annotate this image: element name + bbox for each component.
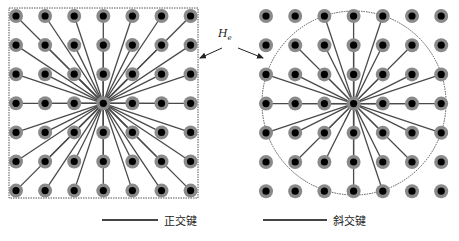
bond	[103, 103, 161, 190]
bond	[103, 103, 132, 190]
atom	[155, 155, 169, 169]
atom	[125, 38, 139, 52]
atom	[347, 97, 361, 111]
bond	[266, 104, 354, 133]
atom	[155, 9, 169, 23]
atom	[184, 67, 198, 81]
atom	[405, 126, 419, 140]
atom	[376, 9, 390, 23]
atom	[9, 67, 23, 81]
atom	[184, 9, 198, 23]
bond	[74, 103, 103, 190]
bond	[103, 103, 190, 161]
bond	[354, 16, 383, 104]
atom	[347, 67, 361, 81]
legend-item-orthogonal: 正交键	[102, 212, 197, 228]
atom	[155, 67, 169, 81]
atom	[259, 97, 273, 111]
atom	[67, 96, 81, 110]
atom	[9, 184, 23, 198]
atom	[96, 155, 110, 169]
atom	[125, 155, 139, 169]
bond	[16, 74, 103, 103]
atom	[434, 67, 448, 81]
atom	[376, 38, 390, 52]
bond	[16, 45, 103, 103]
atom	[434, 155, 448, 169]
atom	[288, 9, 302, 23]
atom	[38, 184, 52, 198]
cutoff-label: He	[218, 27, 232, 42]
atom	[376, 67, 390, 81]
atom	[155, 184, 169, 198]
atom	[67, 9, 81, 23]
atom	[288, 155, 302, 169]
atom	[405, 184, 419, 198]
atom	[317, 67, 331, 81]
atom	[96, 38, 110, 52]
atom	[38, 9, 52, 23]
bond	[74, 16, 103, 103]
atom	[317, 38, 331, 52]
atom	[376, 97, 390, 111]
atom	[184, 38, 198, 52]
atom	[9, 9, 23, 23]
atom	[288, 126, 302, 140]
cutoff-label-sub: e	[228, 34, 232, 42]
atom	[96, 96, 110, 110]
atom	[184, 125, 198, 139]
bond	[324, 16, 353, 104]
atom	[288, 38, 302, 52]
atom	[184, 96, 198, 110]
bond	[103, 103, 190, 132]
atom	[9, 38, 23, 52]
bond	[266, 74, 354, 103]
atom	[67, 155, 81, 169]
bond	[16, 103, 103, 132]
atom	[67, 125, 81, 139]
atom	[259, 126, 273, 140]
atom	[259, 155, 273, 169]
bond	[103, 45, 190, 103]
atom	[9, 155, 23, 169]
atom	[434, 38, 448, 52]
atom	[376, 126, 390, 140]
arrow-right	[238, 48, 263, 58]
atom	[405, 97, 419, 111]
bond	[103, 16, 161, 103]
atom	[347, 184, 361, 198]
legend-line-orthogonal	[102, 219, 158, 221]
atom	[155, 38, 169, 52]
bond	[354, 104, 442, 133]
atom	[38, 96, 52, 110]
atom	[259, 38, 273, 52]
atom	[9, 96, 23, 110]
atom	[125, 67, 139, 81]
atom	[347, 38, 361, 52]
bond	[354, 74, 442, 103]
atom	[67, 38, 81, 52]
atom	[376, 155, 390, 169]
atom	[434, 184, 448, 198]
atom	[317, 126, 331, 140]
atom	[96, 125, 110, 139]
atom	[347, 9, 361, 23]
atom	[434, 97, 448, 111]
atom	[96, 184, 110, 198]
bond	[354, 104, 383, 192]
bond	[45, 16, 103, 103]
legend-label-orthogonal: 正交键	[164, 212, 197, 228]
atom	[38, 67, 52, 81]
atom	[317, 184, 331, 198]
atom	[38, 155, 52, 169]
atom	[259, 9, 273, 23]
atom	[317, 155, 331, 169]
atom	[67, 184, 81, 198]
legend-label-oblique: 斜交键	[333, 212, 366, 228]
atom	[405, 9, 419, 23]
atom	[288, 184, 302, 198]
atom	[405, 155, 419, 169]
bond	[103, 16, 132, 103]
atom	[38, 38, 52, 52]
atom	[434, 9, 448, 23]
